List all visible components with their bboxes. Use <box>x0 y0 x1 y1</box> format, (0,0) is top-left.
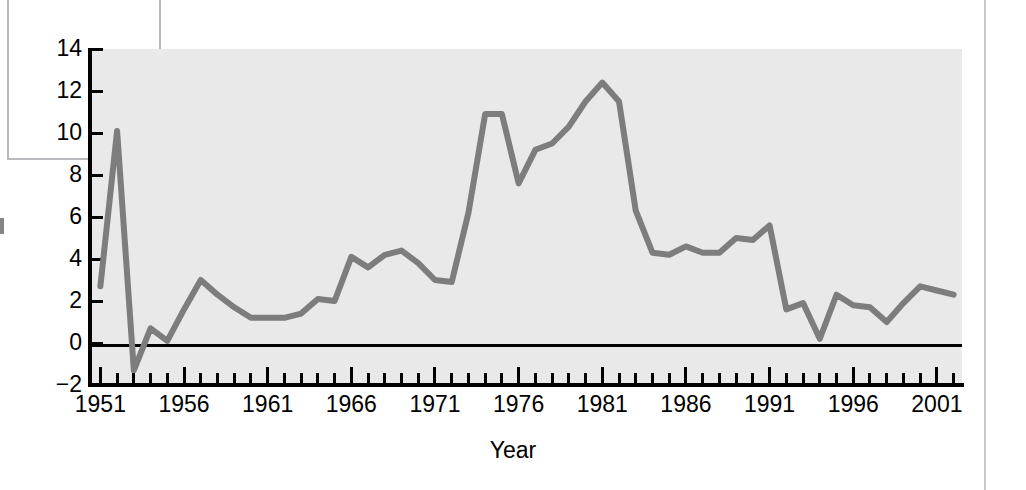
x-axis-tick-label: 1981 <box>557 392 647 417</box>
x-axis-minor-tick <box>450 373 453 384</box>
zero-reference-line <box>92 344 962 347</box>
x-axis-minor-tick <box>116 373 119 384</box>
y-axis-tick-label: 6 <box>36 205 82 228</box>
x-axis-minor-tick <box>166 373 169 384</box>
x-axis-tick-label: 1961 <box>223 392 313 417</box>
x-axis-tick-label: 1951 <box>55 392 145 417</box>
x-axis-major-tick <box>684 367 687 384</box>
y-axis-tick <box>92 300 103 303</box>
x-axis-minor-tick <box>818 373 821 384</box>
x-axis-spine <box>88 383 964 387</box>
x-axis-minor-tick <box>919 373 922 384</box>
x-axis-tick-label: 1986 <box>641 392 731 417</box>
x-axis-minor-tick <box>233 373 236 384</box>
x-axis-minor-tick <box>216 373 219 384</box>
x-axis-minor-tick <box>283 373 286 384</box>
line-chart-figure: −202468101214 19511956196119661971197619… <box>0 0 1026 490</box>
x-axis-tick-label: 1991 <box>725 392 815 417</box>
plot-area <box>92 49 962 346</box>
x-axis-major-tick <box>768 367 771 384</box>
x-axis-major-tick <box>350 367 353 384</box>
x-axis-minor-tick <box>802 373 805 384</box>
x-axis-minor-tick <box>835 373 838 384</box>
y-axis-tick-label: 8 <box>36 163 82 186</box>
x-axis-minor-tick <box>484 373 487 384</box>
x-axis-minor-tick <box>885 373 888 384</box>
x-axis-minor-tick <box>199 373 202 384</box>
x-axis-minor-tick <box>467 373 470 384</box>
x-axis-major-tick <box>99 367 102 384</box>
x-axis-minor-tick <box>584 373 587 384</box>
x-axis-minor-tick <box>400 373 403 384</box>
y-axis-tick <box>92 216 103 219</box>
y-axis-tick <box>92 90 103 93</box>
x-axis-major-tick <box>517 367 520 384</box>
x-axis-minor-tick <box>618 373 621 384</box>
y-axis-tick-label: 2 <box>36 289 82 312</box>
x-axis-tick-label: 1976 <box>474 392 564 417</box>
x-axis-minor-tick <box>634 373 637 384</box>
x-axis-tick-label: 1996 <box>808 392 898 417</box>
x-axis-minor-tick <box>249 373 252 384</box>
x-axis-major-tick <box>601 367 604 384</box>
x-axis-minor-tick <box>300 373 303 384</box>
x-axis-major-tick <box>266 367 269 384</box>
x-axis-minor-tick <box>149 373 152 384</box>
x-axis-minor-tick <box>668 373 671 384</box>
x-axis-minor-tick <box>751 373 754 384</box>
x-axis-minor-tick <box>316 373 319 384</box>
x-axis-minor-tick <box>718 373 721 384</box>
x-axis-minor-tick <box>132 373 135 384</box>
y-axis-tick <box>92 258 103 261</box>
x-axis-major-tick <box>852 367 855 384</box>
x-axis-tick-label: 1956 <box>139 392 229 417</box>
x-axis-major-tick <box>433 367 436 384</box>
x-axis-minor-tick <box>902 373 905 384</box>
x-axis-minor-tick <box>333 373 336 384</box>
x-axis-tick-label: 2001 <box>892 392 982 417</box>
x-axis-minor-tick <box>651 373 654 384</box>
y-axis-tick-label: 12 <box>36 79 82 102</box>
x-axis-tick-label: 1971 <box>390 392 480 417</box>
y-axis-tick-label: 14 <box>36 37 82 60</box>
x-axis-tick-label: 1966 <box>306 392 396 417</box>
x-axis-minor-tick <box>383 373 386 384</box>
x-axis-minor-tick <box>567 373 570 384</box>
x-axis-minor-tick <box>417 373 420 384</box>
x-axis-major-tick <box>183 367 186 384</box>
y-axis-tick <box>92 174 103 177</box>
y-axis-tick <box>92 48 103 51</box>
y-axis-tick <box>92 342 103 345</box>
x-axis-minor-tick <box>868 373 871 384</box>
x-axis-minor-tick <box>952 373 955 384</box>
x-axis-minor-tick <box>500 373 503 384</box>
x-axis-minor-tick <box>735 373 738 384</box>
y-axis-tick-label: 10 <box>36 121 82 144</box>
x-axis-minor-tick <box>367 373 370 384</box>
y-axis-tick <box>92 132 103 135</box>
x-axis-major-tick <box>935 367 938 384</box>
plot-area-below-zero <box>92 346 962 385</box>
x-axis-minor-tick <box>534 373 537 384</box>
x-axis-minor-tick <box>701 373 704 384</box>
y-axis-tick-label: 0 <box>36 331 82 354</box>
y-axis-tick-label: 4 <box>36 247 82 270</box>
x-axis-minor-tick <box>551 373 554 384</box>
x-axis-title: Year <box>0 437 1026 464</box>
x-axis-minor-tick <box>785 373 788 384</box>
